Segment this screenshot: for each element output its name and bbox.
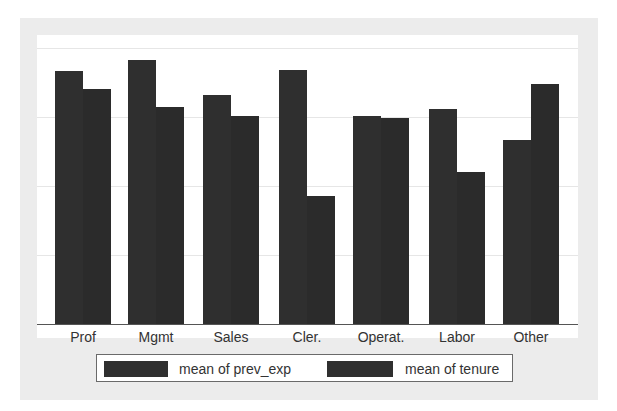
x-tick-label: Mgmt [116, 329, 196, 345]
gridline [37, 48, 578, 49]
legend: mean of prev_exp mean of tenure [96, 354, 513, 382]
legend-swatch-prev-exp [104, 361, 168, 377]
bar-tenure [531, 84, 559, 324]
bar-prev-exp [55, 71, 83, 324]
x-axis-line [37, 324, 578, 325]
bar-prev-exp [353, 116, 381, 324]
x-tick-label: Cler. [267, 329, 347, 345]
x-tick-label: Sales [191, 329, 271, 345]
legend-swatch-tenure [327, 361, 393, 377]
legend-label-prev-exp: mean of prev_exp [179, 361, 291, 377]
bar-prev-exp [429, 109, 457, 324]
bar-tenure [381, 118, 409, 324]
bar-tenure [231, 116, 259, 324]
x-tick-label: Other [491, 329, 571, 345]
bar-tenure [307, 196, 335, 324]
x-tick-label: Prof [43, 329, 123, 345]
gridline [37, 117, 578, 118]
x-tick-label: Operat. [341, 329, 421, 345]
bar-tenure [457, 172, 485, 324]
x-tick-label: Labor [417, 329, 497, 345]
gridline [37, 186, 578, 187]
bar-prev-exp [128, 60, 156, 324]
legend-label-tenure: mean of tenure [405, 361, 499, 377]
bar-prev-exp [279, 70, 307, 324]
bar-tenure [83, 89, 111, 324]
bar-prev-exp [203, 95, 231, 324]
bar-prev-exp [503, 140, 531, 324]
bar-tenure [156, 107, 184, 324]
